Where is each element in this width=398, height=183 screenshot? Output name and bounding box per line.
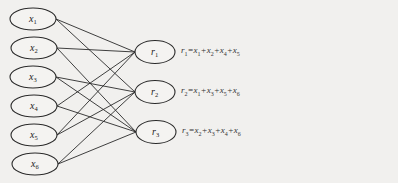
edge-x6-r3 [58,132,136,164]
input-node-x1: x1 [10,8,56,30]
edge-x2-r1 [57,48,135,52]
input-node-x4: x4 [11,95,57,117]
equation-r1: r1=x1+x2+x4+x5 [181,45,240,57]
equation-r2: r2=x1+x3+x5+x6 [181,85,240,97]
input-node-x5: x5 [11,124,57,146]
input-node-x2: x2 [11,37,57,59]
input-node-x6: x6 [12,153,58,175]
equation-r3: r3=x2+x3+x4+x6 [182,125,241,137]
edge-layer [56,19,136,164]
edge-x5-r1 [57,52,135,135]
output-node-r3: r3 [136,121,176,144]
input-node-x3: x3 [10,66,56,88]
output-node-r2: r2 [135,81,175,104]
edge-x1-r2 [56,19,135,92]
output-node-r1: r1 [135,41,175,64]
edge-x1-r1 [56,19,135,52]
